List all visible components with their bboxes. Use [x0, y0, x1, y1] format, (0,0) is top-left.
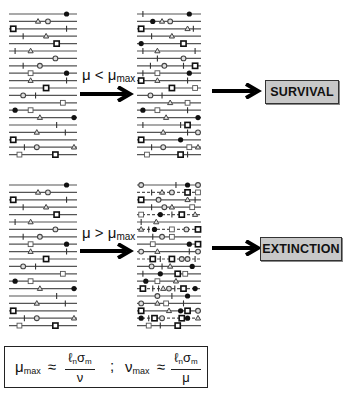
filled-circle-icon [139, 316, 144, 321]
bold-square-icon [139, 26, 144, 31]
open-square-icon [28, 71, 33, 76]
mu-symbol: μ [15, 358, 24, 375]
fraction-1: ℓnσm ν [65, 351, 95, 385]
open-square-icon [190, 205, 195, 210]
open-circle-icon [156, 197, 161, 202]
bold-square-icon [54, 212, 59, 217]
filled-circle-icon [158, 271, 163, 276]
open-circle-icon [139, 249, 144, 254]
numerator: ℓnσm [171, 351, 201, 370]
bold-square-icon [11, 197, 16, 202]
bold-square-icon [195, 242, 200, 247]
filled-circle-icon [139, 41, 144, 46]
triangle-icon [28, 48, 33, 53]
filled-circle-icon [64, 242, 69, 247]
mu-max-label: μmax ≈ [15, 358, 56, 376]
bold-square-icon [185, 122, 190, 127]
separator: ; [110, 357, 114, 374]
open-circle-icon [196, 130, 201, 135]
triangle-icon [159, 19, 164, 24]
bold-square-icon [11, 137, 16, 142]
bold-square-icon [11, 308, 16, 313]
triangle-icon [28, 219, 33, 224]
open-circle-icon [38, 63, 43, 68]
open-circle-icon [148, 93, 153, 98]
triangle-icon [34, 130, 39, 135]
filled-circle-icon [64, 71, 69, 76]
triangle-icon [185, 26, 190, 31]
triangle-icon [161, 286, 166, 291]
arrow-right-icon [212, 240, 262, 256]
bold-square-icon [181, 41, 186, 46]
open-circle-icon [168, 19, 173, 24]
approx-symbol: ≈ [48, 358, 56, 375]
bold-square-icon [152, 316, 157, 321]
bold-square-icon [53, 323, 58, 328]
filled-circle-icon [185, 293, 190, 298]
bold-square-icon [44, 256, 49, 261]
nu-max-label: νmax ≈ [125, 358, 165, 376]
open-circle-icon [53, 227, 58, 232]
filled-circle-icon [143, 279, 148, 284]
bundle-bottom-left [8, 181, 78, 331]
triangle-icon [159, 190, 164, 195]
bold-square-icon [44, 85, 49, 90]
triangle-icon [166, 308, 171, 313]
population-lines [8, 10, 78, 160]
bold-square-icon [178, 152, 183, 157]
open-square-icon [139, 212, 144, 217]
subscript: max [116, 231, 135, 242]
open-square-icon [155, 108, 160, 113]
operator: < [95, 66, 104, 83]
triangle-icon [173, 278, 178, 283]
triangle-icon [34, 301, 39, 306]
approx-symbol: ≈ [157, 358, 165, 375]
open-circle-icon [184, 227, 189, 232]
triangle-icon [155, 301, 160, 306]
bold-square-icon [140, 286, 145, 291]
nu-symbol: ν [125, 358, 133, 375]
triangle-icon [161, 130, 166, 135]
bold-square-icon [139, 197, 144, 202]
open-circle-icon [139, 301, 144, 306]
open-circle-icon [139, 183, 144, 188]
open-circle-icon [160, 316, 165, 321]
filled-circle-icon [195, 115, 200, 120]
open-square-icon [28, 108, 33, 113]
subscript: max [133, 366, 150, 376]
filled-circle-icon [150, 19, 155, 24]
numerator: ℓnσm [65, 351, 95, 370]
filled-circle-icon [187, 242, 192, 247]
population-lines [136, 10, 202, 160]
open-square-icon [17, 323, 22, 328]
filled-circle-icon [185, 182, 190, 187]
triangle-icon [185, 197, 190, 202]
triangle-icon [155, 78, 160, 83]
triangle-icon [164, 115, 169, 120]
triangle-icon [71, 144, 76, 149]
triangle-icon [168, 100, 173, 105]
arrow-right-icon [212, 83, 262, 99]
subscript: max [24, 366, 41, 376]
open-square-icon [164, 301, 169, 306]
open-circle-icon [162, 205, 167, 210]
bold-square-icon [179, 212, 184, 217]
triangle-icon [155, 48, 160, 53]
filled-circle-icon [178, 137, 183, 142]
triangle-icon [44, 204, 49, 209]
triangle-icon [139, 227, 144, 232]
triangle-icon [193, 212, 198, 217]
open-square-icon [170, 234, 175, 239]
filled-circle-icon [190, 264, 195, 269]
sigma-symbol: σ [77, 350, 85, 365]
triangle-icon [195, 144, 200, 149]
triangle-icon [37, 115, 42, 120]
open-circle-icon [34, 316, 39, 321]
open-square-icon [196, 190, 201, 195]
triangle-icon [28, 78, 33, 83]
triangle-icon [155, 249, 160, 254]
outcome-extinction: EXTINCTION [260, 237, 342, 261]
open-square-icon [150, 242, 155, 247]
open-square-icon [183, 271, 188, 276]
open-circle-icon [160, 234, 165, 239]
